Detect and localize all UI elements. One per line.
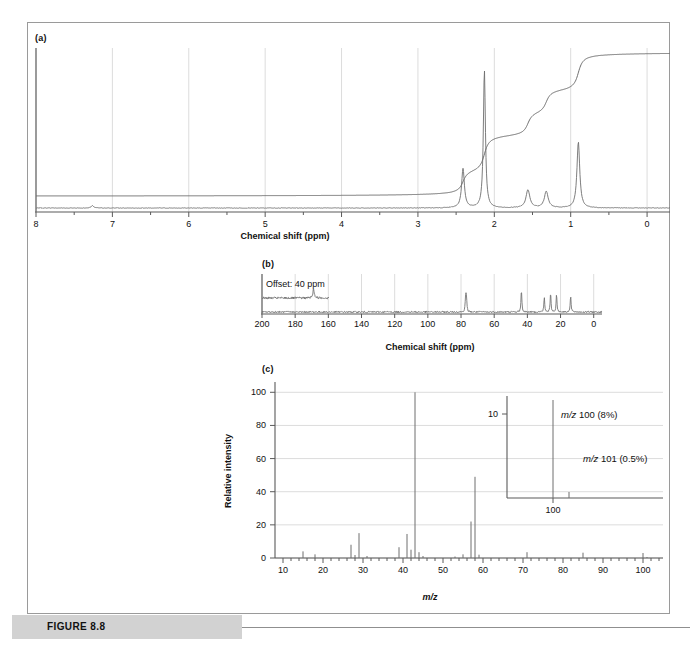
svg-text:80: 80 (256, 420, 266, 430)
svg-text:70: 70 (518, 565, 528, 575)
svg-text:60: 60 (478, 565, 488, 575)
svg-text:120: 120 (387, 319, 402, 329)
carbon-nmr-plot: 200180160140120100806040200Offset: 40 pp… (250, 268, 610, 348)
svg-text:100: 100 (635, 565, 650, 575)
svg-text:1: 1 (568, 219, 573, 229)
svg-text:80: 80 (558, 565, 568, 575)
svg-text:5: 5 (263, 219, 268, 229)
svg-text:100: 100 (420, 319, 435, 329)
offset-label: Offset: 40 ppm (266, 279, 325, 289)
svg-text:50: 50 (438, 565, 448, 575)
svg-text:60: 60 (256, 454, 266, 464)
proton-nmr-plot: 876543210 (12, 40, 682, 255)
svg-text:20: 20 (256, 520, 266, 530)
svg-text:40: 40 (398, 565, 408, 575)
svg-text:90: 90 (598, 565, 608, 575)
svg-text:7: 7 (110, 219, 115, 229)
panel-b-xlabel: Chemical shift (ppm) (300, 342, 560, 352)
svg-text:200: 200 (254, 319, 269, 329)
svg-text:160: 160 (321, 319, 336, 329)
svg-text:10: 10 (278, 565, 288, 575)
panel-a-xlabel: Chemical shift (ppm) (155, 231, 415, 241)
svg-text:40: 40 (522, 319, 532, 329)
svg-text:60: 60 (489, 319, 499, 329)
svg-text:80: 80 (456, 319, 466, 329)
figure-label: FIGURE 8.8 (47, 621, 105, 632)
svg-text:140: 140 (354, 319, 369, 329)
panel-c-xlabel: m/z (380, 592, 480, 602)
svg-text:20: 20 (556, 319, 566, 329)
svg-text:0: 0 (591, 319, 596, 329)
svg-text:3: 3 (415, 219, 420, 229)
inset-annotation-100: m/z 100 (8%) (561, 409, 618, 420)
svg-text:30: 30 (358, 565, 368, 575)
mass-spectrum-plot: 020406080100102030405060708090100Relativ… (215, 372, 675, 597)
figure-banner: FIGURE 8.8 (12, 615, 242, 639)
svg-text:180: 180 (288, 319, 303, 329)
panel-c-ylabel: Relative intensity (223, 434, 233, 508)
inset-annotation-101: m/z 101 (0.5%) (583, 453, 647, 464)
svg-text:40: 40 (256, 487, 266, 497)
svg-text:6: 6 (186, 219, 191, 229)
svg-text:8: 8 (33, 219, 38, 229)
svg-text:100: 100 (251, 387, 266, 397)
banner-rule (242, 627, 690, 628)
inset-y-tick: 10 (488, 409, 498, 419)
svg-text:0: 0 (261, 553, 266, 563)
svg-text:0: 0 (645, 219, 650, 229)
svg-text:4: 4 (339, 219, 344, 229)
svg-text:2: 2 (492, 219, 497, 229)
inset-x-tick: 100 (545, 505, 560, 515)
svg-text:20: 20 (318, 565, 328, 575)
